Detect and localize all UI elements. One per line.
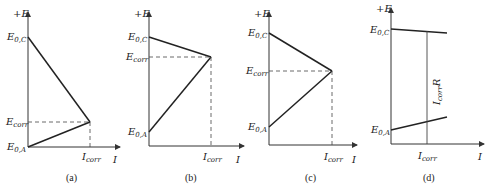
svg-text:Ecorr: Ecorr xyxy=(125,51,149,64)
cathodic-line xyxy=(391,29,447,33)
svg-text:I: I xyxy=(351,154,357,165)
svg-text:+E: +E xyxy=(134,8,150,19)
panel-c: +E I E0,C Ecorr E0,A Icorr (c) xyxy=(245,8,357,184)
caption-d: (d) xyxy=(423,172,435,184)
y-axis-label: +E xyxy=(13,8,29,19)
panel-b: +E I E0,C Ecorr E0,A Icorr (b) xyxy=(125,8,244,184)
svg-text:+E: +E xyxy=(254,8,270,19)
svg-text:Icorr: Icorr xyxy=(323,151,343,164)
svg-text:I: I xyxy=(477,151,483,162)
svg-text:E0,C: E0,C xyxy=(6,31,27,44)
svg-text:Icorr: Icorr xyxy=(202,151,222,164)
ir-label: IcorrR xyxy=(431,78,444,106)
svg-text:Icorr: Icorr xyxy=(417,150,437,163)
anodic-line xyxy=(269,71,332,127)
svg-text:E0,A: E0,A xyxy=(370,124,390,137)
x-axis-label: I xyxy=(112,154,118,165)
panel-d: +E I E0,C E0,A Icorr IcorrR (d) xyxy=(369,3,484,184)
caption-b: (b) xyxy=(185,172,197,184)
svg-text:E0,A: E0,A xyxy=(127,126,147,139)
svg-text:Icorr: Icorr xyxy=(81,151,101,164)
caption-a: (a) xyxy=(66,172,77,184)
panel-a: +E I E0,C Ecorr E0,A Icorr (a) xyxy=(5,8,120,184)
svg-text:E0,C: E0,C xyxy=(127,31,148,44)
anodic-line xyxy=(28,122,90,147)
evans-diagrams: +E I E0,C Ecorr E0,A Icorr (a) +E I E0,C… xyxy=(0,0,489,190)
svg-text:+E: +E xyxy=(376,3,392,14)
anodic-line xyxy=(149,57,211,132)
anodic-line xyxy=(391,117,447,130)
svg-text:Ecorr: Ecorr xyxy=(5,116,29,129)
cathodic-line xyxy=(269,33,332,71)
svg-text:E0,A: E0,A xyxy=(247,121,267,134)
svg-text:E0,C: E0,C xyxy=(369,24,390,37)
cathodic-line xyxy=(149,37,211,57)
svg-text:E0,C: E0,C xyxy=(247,27,268,40)
caption-c: (c) xyxy=(305,172,316,184)
cathodic-line xyxy=(28,37,90,122)
svg-text:E0,A: E0,A xyxy=(6,141,26,154)
svg-text:Ecorr: Ecorr xyxy=(245,65,269,78)
svg-text:I: I xyxy=(235,154,241,165)
